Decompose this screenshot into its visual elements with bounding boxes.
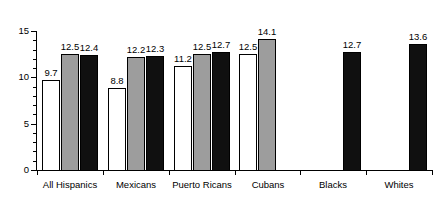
bar-value-cubans-gray: 14.1: [251, 27, 283, 37]
y-minor-tick-13: [33, 50, 36, 51]
y-minor-tick-2: [33, 151, 36, 152]
y-minor-tick-6: [33, 114, 36, 115]
bar-mexicans-white: [108, 88, 126, 171]
y-minor-tick-3: [33, 142, 36, 143]
x-tick-0: [37, 170, 38, 175]
y-minor-tick-1: [33, 161, 36, 162]
bar-value-mexicans-black: 12.3: [139, 44, 171, 54]
bar-puerto-ricans-gray: [193, 54, 211, 171]
y-tick-label-wrap: 15: [0, 26, 29, 36]
x-tick-3: [235, 170, 236, 175]
y-minor-tick-9: [33, 87, 36, 88]
y-tick-label-wrap: 0: [0, 165, 29, 175]
bar-value-puerto-ricans-white: 11.2: [167, 54, 199, 64]
bar-puerto-ricans-black: [212, 52, 230, 171]
x-tick-1: [103, 170, 104, 175]
bar-value-all-hispanics-white: 9.7: [35, 68, 67, 78]
y-tick-15: [31, 31, 36, 32]
y-tick-label-10: 10: [3, 72, 29, 82]
bar-mexicans-black: [146, 56, 164, 171]
y-tick-5: [31, 124, 36, 125]
bar-mexicans-gray: [127, 57, 145, 171]
bar-value-blacks-black: 12.7: [336, 40, 368, 50]
y-tick-label-wrap: 10: [0, 72, 29, 82]
y-minor-tick-7: [33, 105, 36, 106]
y-minor-tick-4: [33, 133, 36, 134]
y-minor-tick-12: [33, 59, 36, 60]
bar-value-all-hispanics-black: 12.4: [73, 43, 105, 53]
bar-chart: 051015 9.712.512.48.812.212.311.212.512.…: [0, 0, 441, 205]
y-tick-label-15: 15: [3, 26, 29, 36]
y-tick-0: [31, 170, 36, 171]
x-category-label-whites: Whites: [356, 180, 441, 190]
bar-value-mexicans-white: 8.8: [101, 76, 133, 86]
bar-value-whites-black: 13.6: [402, 32, 434, 42]
y-tick-label-0: 0: [3, 165, 29, 175]
y-minor-tick-8: [33, 96, 36, 97]
x-tick-4: [300, 170, 301, 175]
bar-cubans-gray: [258, 39, 276, 171]
x-tick-2: [169, 170, 170, 175]
y-tick-label-5: 5: [3, 119, 29, 129]
y-minor-tick-14: [33, 40, 36, 41]
bar-whites-black: [409, 44, 427, 171]
bar-blacks-black: [343, 52, 361, 171]
y-tick-label-wrap: 5: [0, 119, 29, 129]
x-tick-6: [432, 170, 433, 175]
x-tick-5: [366, 170, 367, 175]
bar-cubans-white: [239, 54, 257, 171]
bar-puerto-ricans-white: [174, 66, 192, 171]
bar-all-hispanics-white: [42, 80, 60, 171]
y-axis-line: [36, 31, 37, 171]
bar-all-hispanics-black: [80, 55, 98, 171]
bar-value-cubans-white: 12.5: [232, 42, 264, 52]
plot-area: 051015 9.712.512.48.812.212.311.212.512.…: [0, 0, 441, 205]
